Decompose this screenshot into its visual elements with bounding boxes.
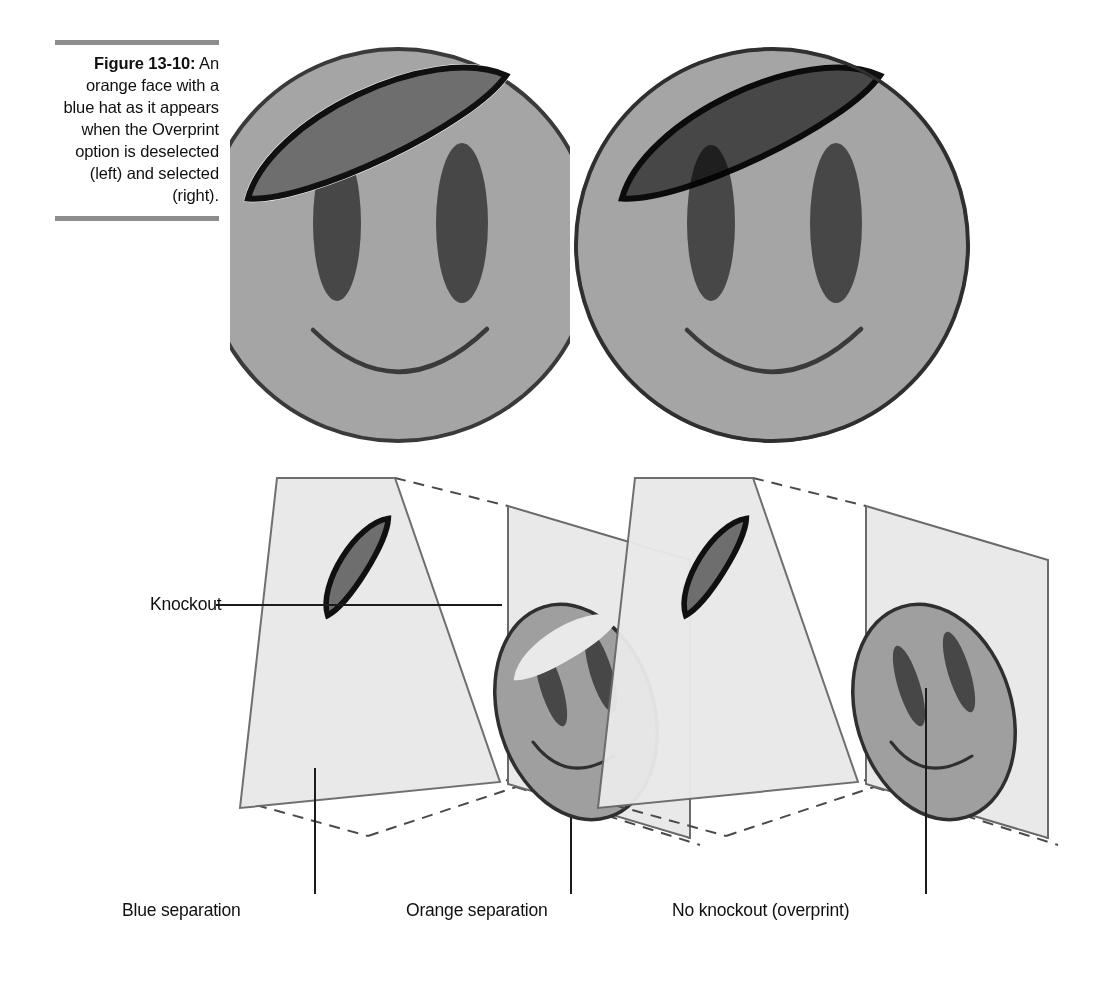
face-right-eye-overprint xyxy=(810,143,862,303)
composite-face-overprint xyxy=(576,33,968,441)
composite-face-knockout xyxy=(202,33,594,441)
blue-separation-plate-overprint xyxy=(598,478,858,808)
face-right-eye xyxy=(436,143,488,303)
callout-label-knockout: Knockout xyxy=(150,594,221,615)
leader-line-orange-separation xyxy=(570,818,572,894)
leader-line-knockout xyxy=(216,604,502,606)
separations-overprint-diagram xyxy=(598,478,1058,845)
leader-line-blue-separation xyxy=(314,768,316,894)
figure-artwork xyxy=(0,0,1113,981)
figure-page: Figure 13-10: An orange face with a blue… xyxy=(0,0,1113,981)
callout-label-blue-separation: Blue separation xyxy=(122,900,241,921)
blue-separation-plate-knockout xyxy=(240,478,500,808)
leader-line-no-knockout xyxy=(925,688,927,894)
callout-label-orange-separation: Orange separation xyxy=(406,900,548,921)
callout-label-no-knockout: No knockout (overprint) xyxy=(672,900,849,921)
orange-separation-plate-overprint xyxy=(827,506,1048,840)
